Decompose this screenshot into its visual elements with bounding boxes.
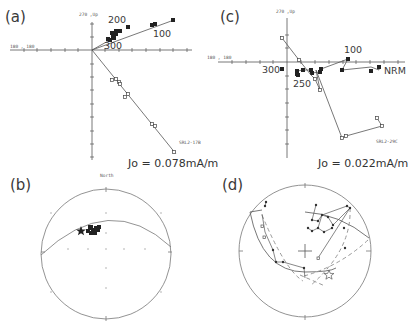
panel-a-step-200: 200 — [108, 14, 126, 25]
panel-d-label: (d) — [222, 176, 243, 194]
panel-c-axes — [218, 18, 405, 158]
panel-d-center-cross — [298, 244, 312, 258]
panel-d-solid-great-circles — [250, 210, 369, 272]
panel-a-step-100: 100 — [153, 28, 171, 39]
panel-a-sample-label: SRL2-17B — [179, 140, 201, 145]
panel-c-vertical-axis-label: 270 ,Up — [276, 9, 295, 14]
panel-a-horizontal-axis-label: 180 , 180 — [10, 44, 34, 49]
panel-b-stereonet — [41, 187, 172, 321]
panel-a-label: (a) — [5, 8, 26, 26]
panel-c-step-100: 100 — [344, 44, 362, 55]
panel-a-vertical-axis-label: 270 ,Up — [79, 12, 98, 17]
panel-b-label: (b) — [10, 176, 31, 194]
panel-a-step-300: 300 — [104, 40, 122, 51]
panel-d-demag-path — [262, 202, 350, 278]
panel-c-horizontal-points — [280, 57, 381, 77]
panel-c-step-250: 250 — [293, 78, 311, 89]
panel-c-horizontal-axis-label: 180 , 180 — [207, 55, 231, 60]
panel-c-label: (c) — [220, 8, 240, 26]
panel-d-points — [264, 201, 351, 269]
panel-b-mean-star — [76, 226, 86, 235]
panel-d-dashed-great-circles — [262, 208, 368, 286]
panel-c-step-300: 300 — [262, 64, 280, 75]
panel-b-cluster-points — [86, 225, 101, 235]
figure: (a) 270 ,Up 180 , 180 200 100 300 SRL2-1… — [0, 0, 410, 324]
panel-c-step-nrm: NRM — [384, 65, 406, 76]
panel-c-sample-label: SRL2-29C — [376, 139, 398, 144]
panel-a-axes — [10, 22, 192, 160]
panel-c-jo-label: Jo = 0.022mA/m — [318, 157, 408, 170]
panel-d-mean-star — [324, 270, 334, 279]
panel-b-grid-dots — [50, 212, 161, 292]
panel-a-vertical-points — [111, 78, 176, 154]
panel-a-jo-label: Jo = 0.078mA/m — [128, 157, 218, 170]
panel-b-north-label: North — [100, 173, 114, 178]
